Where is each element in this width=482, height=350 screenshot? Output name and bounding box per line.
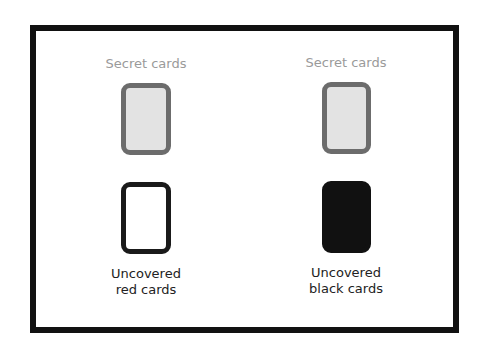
uncovered-label-left-line1: Uncovered (66, 266, 226, 282)
uncovered-red-card (121, 182, 171, 254)
secret-card-right (322, 82, 371, 154)
uncovered-label-right-line1: Uncovered (266, 265, 426, 281)
uncovered-black-card (322, 181, 371, 253)
uncovered-label-right-line2: black cards (266, 281, 426, 297)
uncovered-label-left-line2: red cards (66, 282, 226, 298)
secret-card-left (121, 83, 171, 155)
secret-cards-label-left: Secret cards (66, 56, 226, 72)
secret-cards-label-right: Secret cards (266, 55, 426, 71)
